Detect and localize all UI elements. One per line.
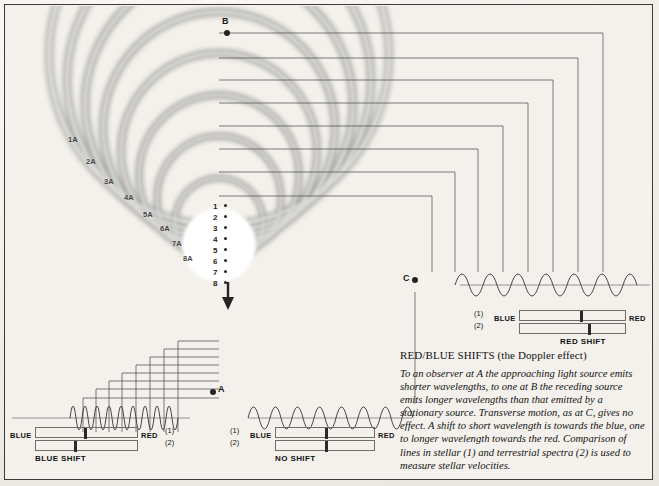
no-shift-spectrum-row2	[275, 440, 375, 451]
source-number-1: 1	[213, 203, 217, 211]
blue-shift-row2-index: (2)	[165, 439, 174, 447]
no-shift-spectrum-row1	[275, 427, 375, 438]
blue-shift-spectrum-row1	[35, 427, 138, 438]
no-shift-row2-index: (2)	[230, 439, 239, 447]
source-number-2: 2	[213, 214, 217, 222]
source-number-3: 3	[213, 225, 217, 233]
no-shift-blue-label: BLUE	[250, 432, 272, 440]
red-shift-connectors	[219, 33, 603, 272]
red-shift-spectrum-row2	[519, 323, 626, 334]
source-motion-arrow	[222, 282, 234, 310]
blue-shift-row1-index: (1)	[165, 427, 174, 435]
red-shift-caption: RED SHIFT	[560, 338, 606, 346]
observer-b-dot	[224, 30, 230, 36]
caption-block: RED/BLUE SHIFTS (the Doppler effect) To …	[400, 349, 647, 472]
caption-body: To an observer at A the approaching ligh…	[400, 367, 647, 472]
red-shift-row2-index: (2)	[474, 322, 483, 330]
source-number-7: 7	[213, 269, 217, 277]
source-number-4: 4	[213, 236, 217, 244]
red-shift-line-row1	[580, 311, 583, 322]
red-shift-line-row2	[588, 324, 591, 335]
observer-a-dot	[210, 389, 216, 395]
red-shift-waveform	[455, 274, 650, 296]
blue-shift-spectrum-row2	[35, 440, 138, 451]
red-shift-row1-index: (1)	[474, 310, 483, 318]
no-shift-waveform	[248, 407, 413, 429]
red-shift-blue-label: BLUE	[494, 315, 516, 323]
source-number-6: 6	[213, 258, 217, 266]
red-shift-red-label: RED	[629, 315, 646, 323]
blue-shift-caption: BLUE SHIFT	[35, 455, 86, 463]
wavefront-label-7a: 7A	[172, 240, 182, 248]
observer-b-label: B	[222, 17, 229, 26]
blue-shift-blue-label: BLUE	[10, 432, 32, 440]
wavefront-label-3a: 3A	[104, 178, 114, 186]
no-shift-row1-index: (1)	[230, 427, 239, 435]
source-number-8: 8	[213, 280, 217, 288]
wavefront-label-8a: 8A	[183, 255, 193, 263]
wavefront-label-1a: 1A	[68, 136, 78, 144]
wavefront-label-2a: 2A	[86, 158, 96, 166]
observer-c-dot	[412, 277, 418, 283]
blue-shift-line-row2	[74, 441, 77, 452]
wavefront-label-5a: 5A	[143, 211, 153, 219]
wavefront-label-6a: 6A	[160, 225, 170, 233]
wavefront-label-4a: 4A	[124, 194, 134, 202]
observer-c-label: C	[403, 274, 410, 283]
observer-a-label: A	[218, 385, 225, 394]
doppler-effect-diagram: 1A 2A 3A 4A 5A 6A 7A 8A 1 2 3 4 5 6 7 8 …	[0, 0, 659, 486]
no-shift-line-row2	[325, 441, 328, 452]
no-shift-line-row1	[325, 428, 328, 439]
red-shift-spectrum-row1	[519, 310, 626, 321]
source-number-5: 5	[213, 247, 217, 255]
blue-shift-red-label: RED	[141, 432, 158, 440]
blue-shift-line-row1	[84, 428, 87, 439]
caption-title: RED/BLUE SHIFTS (the Doppler effect)	[400, 349, 647, 361]
no-shift-red-label: RED	[378, 432, 395, 440]
no-shift-caption: NO SHIFT	[275, 455, 316, 463]
